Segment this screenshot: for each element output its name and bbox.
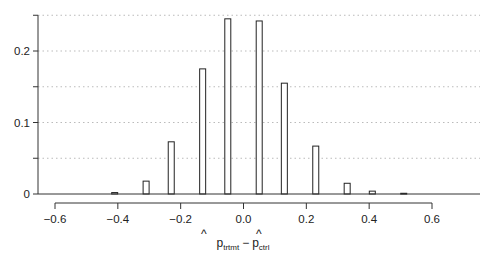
x-axis-label: ptrtmt−pctrl bbox=[216, 236, 269, 252]
bar bbox=[168, 142, 174, 194]
hat-icon: ^ bbox=[256, 227, 262, 241]
y-tick-label: 0 bbox=[24, 188, 30, 200]
minus-sign: − bbox=[242, 236, 249, 250]
histogram-chart: 00.10.2 −0.6−0.4−0.20.00.20.40.6 ptrtmt−… bbox=[0, 0, 492, 263]
bars bbox=[112, 19, 407, 194]
x-tick-label: −0.6 bbox=[44, 213, 67, 225]
bar bbox=[344, 183, 350, 194]
y-axis: 00.10.2 bbox=[14, 15, 38, 200]
y-tick-label: 0.2 bbox=[14, 45, 30, 57]
bar bbox=[225, 19, 231, 194]
x-axis: −0.6−0.4−0.20.00.20.40.6 bbox=[44, 203, 440, 225]
x-tick-label: 0.6 bbox=[424, 213, 440, 225]
x-tick-label: 0.4 bbox=[361, 213, 378, 225]
bar bbox=[200, 69, 206, 194]
x-tick-label: 0.2 bbox=[298, 213, 314, 225]
bar bbox=[281, 83, 287, 194]
subscript-trtmt: trtmt bbox=[223, 243, 240, 252]
hat-icon: ^ bbox=[201, 227, 207, 241]
x-tick-label: −0.4 bbox=[106, 213, 129, 225]
x-tick-label: −0.2 bbox=[169, 213, 192, 225]
bar bbox=[313, 146, 319, 194]
subscript-ctrl: ctrl bbox=[259, 243, 270, 252]
bar bbox=[143, 181, 149, 194]
x-tick-label: 0.0 bbox=[236, 213, 252, 225]
y-tick-label: 0.1 bbox=[14, 117, 30, 129]
bar bbox=[256, 21, 262, 194]
